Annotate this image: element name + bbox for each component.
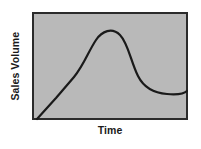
x-axis-label: Time — [98, 125, 123, 136]
plot-area — [32, 12, 188, 120]
y-axis-label-container: Sales Volume — [0, 12, 30, 120]
sales-volume-curve — [37, 31, 187, 119]
y-axis-label: Sales Volume — [10, 32, 21, 101]
x-axis-label-container: Time — [32, 122, 188, 138]
sales-curve-svg — [34, 14, 190, 122]
sales-volume-chart-figure: Sales Volume Time — [0, 0, 201, 149]
